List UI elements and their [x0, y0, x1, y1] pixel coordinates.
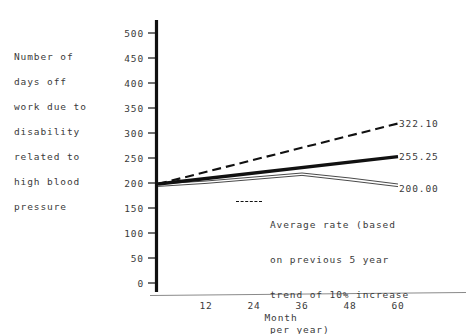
dashed-line-icon: [236, 196, 262, 207]
value-label-actual-impact: 200.00: [399, 183, 439, 194]
legend-label-line: on previous 5 year: [270, 254, 466, 266]
chart-figure: Number of days off work due to disabilit…: [0, 0, 466, 334]
legend-label-line: per year): [270, 324, 466, 334]
chart-legend: Average rate (based on previous 5 year t…: [236, 196, 466, 334]
y-axis-ticks: [148, 33, 155, 283]
legend-item-average-rate: Average rate (based on previous 5 year t…: [236, 196, 466, 334]
x-tick-label: 12: [189, 300, 223, 311]
value-label-average-rate: 322.10: [399, 118, 439, 129]
value-label-goal: 255.25: [399, 151, 439, 162]
legend-label-line: Average rate (based: [270, 219, 466, 231]
legend-label-line: trend of 10% increase: [270, 289, 466, 301]
